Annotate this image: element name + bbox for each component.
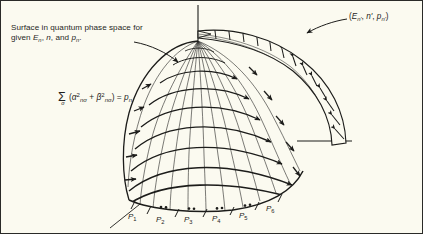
tick-index: 1 [133,216,136,222]
summation-index: σ [61,100,64,107]
tick-index: 2 [161,219,164,225]
caption-period: . [79,33,81,42]
alpha-subscript: nσ [80,97,87,103]
formula-rhs-subscript: n [129,97,132,103]
axis-tick-label-p6: P6 [266,204,275,214]
band-label-close-paren: ) [386,12,389,21]
band-state-label: (En', n', pn') [349,12,389,23]
formula-equals: = [114,92,124,102]
axis-tick-label-p5: P5 [239,211,248,221]
axis-tick-label-p1: P1 [128,212,137,222]
axis-tick-label-p4: P4 [212,214,221,224]
figure-caption: Surface in quantum phase space for given… [11,23,143,44]
figure-container: Surface in quantum phase space for given… [0,0,423,234]
axis-tick-label-p2: P2 [156,215,165,225]
beta-subscript: nσ [105,97,112,103]
axis-tick-label-p3: P3 [184,215,193,225]
tick-index: 5 [244,215,247,221]
caption-and-text: , and [51,33,72,42]
caption-line-1: Surface in quantum phase space for [11,23,143,32]
caption-line-2: given En, n, and pn. [11,33,143,44]
constraint-formula: Σσ(α2nσ + β2nσ) = pn [58,89,132,105]
caption-given-prefix: given [11,33,33,42]
tick-index: 4 [217,218,220,224]
tick-index: 3 [189,219,192,225]
summation-group: Σσ [58,89,69,105]
tick-index: 6 [271,208,274,214]
